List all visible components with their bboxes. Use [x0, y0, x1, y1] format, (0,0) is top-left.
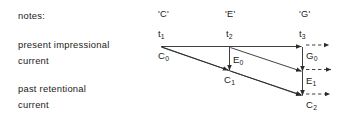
point-label-e1-sub: 1: [313, 80, 317, 87]
row-caption-notes: notes:: [18, 11, 45, 20]
point-label-e0-sub: 0: [240, 59, 244, 66]
row-caption-notes-line1: notes:: [18, 10, 45, 21]
note-name-g: 'G': [299, 10, 311, 19]
row-caption-present-line1: present impressional: [18, 39, 110, 50]
point-label-c2: C2: [306, 100, 317, 110]
note-name-c: 'C': [158, 10, 169, 19]
point-label-c2-base: C: [306, 99, 313, 110]
point-label-c1: C1: [224, 75, 235, 85]
point-label-e0-base: E: [233, 54, 239, 65]
time-label-t1: t1: [158, 29, 164, 39]
time-label-t3: t3: [299, 29, 305, 39]
line-c1-to-c2: [231, 71, 302, 95]
time-label-t3-sub: 3: [302, 33, 306, 40]
point-label-e0: E0: [233, 55, 243, 65]
row-caption-present-line2: current: [18, 56, 110, 65]
row-caption-past-line2: current: [18, 100, 86, 109]
point-label-e1-base: E: [306, 75, 312, 86]
row-caption-past-retentional-current: past retentional current: [18, 84, 86, 110]
point-label-c1-sub: 1: [231, 79, 235, 86]
time-label-t1-sub: 1: [161, 33, 165, 40]
point-label-g0-sub: 0: [314, 55, 318, 62]
point-label-g0: G0: [306, 51, 317, 61]
note-name-e: 'E': [225, 10, 236, 19]
point-label-g0-base: G: [306, 50, 313, 61]
point-label-c0-sub: 0: [165, 55, 169, 62]
row-caption-present-impressional-current: present impressional current: [18, 40, 110, 66]
time-label-t2: t2: [226, 29, 232, 39]
point-label-c2-sub: 2: [313, 104, 317, 111]
point-label-c1-base: C: [224, 74, 231, 85]
point-label-c0-base: C: [158, 50, 165, 61]
point-label-c0: C0: [158, 51, 169, 61]
time-consciousness-diagram: notes: present impressional current past…: [0, 0, 364, 120]
row-caption-past-line1: past retentional: [18, 83, 86, 94]
point-label-e1: E1: [306, 76, 316, 86]
time-label-t2-sub: 2: [229, 33, 233, 40]
